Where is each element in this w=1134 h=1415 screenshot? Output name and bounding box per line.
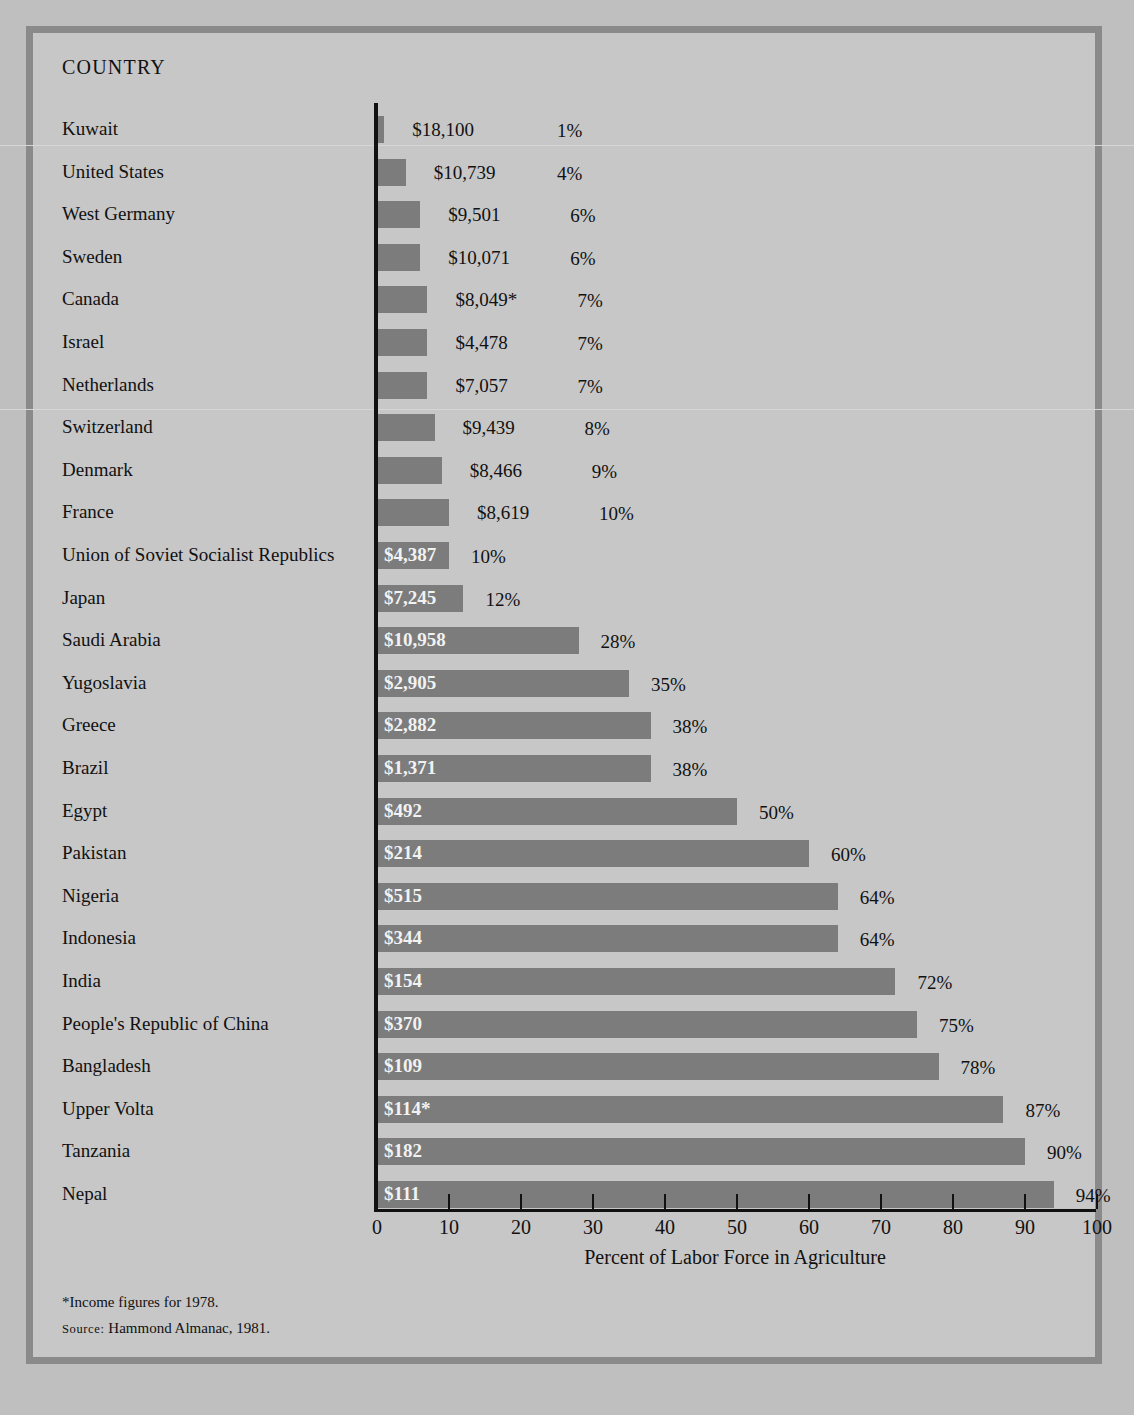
percent-label: 90% (1047, 1142, 1082, 1164)
income-label: $7,057 (455, 375, 507, 397)
country-label: France (62, 501, 114, 523)
x-axis-tick (448, 1194, 450, 1209)
chart-row: Kuwait$18,1001% (0, 110, 1134, 153)
x-axis-tick (664, 1194, 666, 1209)
x-axis-tick (736, 1194, 738, 1209)
income-label: $515 (384, 885, 422, 907)
x-axis-tick (952, 1194, 954, 1209)
bar (377, 414, 435, 441)
percent-label: 78% (961, 1057, 996, 1079)
income-label: $214 (384, 842, 422, 864)
x-axis-tick-label: 70 (871, 1216, 891, 1239)
x-axis-title: Percent of Labor Force in Agriculture (374, 1246, 1096, 1269)
chart-row: Denmark$8,4669% (0, 451, 1134, 494)
percent-label: 64% (860, 929, 895, 951)
bar (377, 499, 449, 526)
chart-row: Pakistan$21460% (0, 834, 1134, 877)
x-axis-tick-label: 10 (439, 1216, 459, 1239)
bar (377, 372, 427, 399)
chart-row: Yugoslavia$2,90535% (0, 664, 1134, 707)
income-label: $344 (384, 927, 422, 949)
income-label: $9,501 (448, 204, 500, 226)
chart-row: Bangladesh$10978% (0, 1047, 1134, 1090)
x-axis-tick (808, 1194, 810, 1209)
chart-row: France$8,61910% (0, 493, 1134, 536)
bar (377, 457, 442, 484)
percent-label: 8% (585, 418, 610, 440)
income-label: $1,371 (384, 757, 436, 779)
chart-row: India$15472% (0, 962, 1134, 1005)
country-label: Bangladesh (62, 1055, 151, 1077)
percent-label: 38% (673, 716, 708, 738)
source-value: Hammond Almanac, 1981. (108, 1320, 270, 1336)
country-label: Brazil (62, 757, 108, 779)
country-label: Upper Volta (62, 1098, 154, 1120)
country-label: India (62, 970, 101, 992)
percent-label: 7% (577, 290, 602, 312)
country-label: Egypt (62, 800, 107, 822)
x-axis-tick-label: 40 (655, 1216, 675, 1239)
percent-label: 7% (577, 333, 602, 355)
income-label: $8,466 (470, 460, 522, 482)
percent-label: 9% (592, 461, 617, 483)
bar (377, 1138, 1025, 1165)
income-label: $9,439 (463, 417, 515, 439)
percent-label: 12% (485, 589, 520, 611)
country-label: Denmark (62, 459, 133, 481)
chart-row: Netherlands$7,0577% (0, 366, 1134, 409)
source-label: Source: (62, 1322, 105, 1336)
bar (377, 1011, 917, 1038)
country-label: Israel (62, 331, 104, 353)
percent-label: 7% (577, 376, 602, 398)
chart-row: Nigeria$51564% (0, 877, 1134, 920)
country-label: Union of Soviet Socialist Republics (62, 544, 334, 566)
country-label: West Germany (62, 203, 175, 225)
x-axis-tick (592, 1194, 594, 1209)
income-label: $111 (384, 1183, 420, 1205)
x-axis-tick (880, 1194, 882, 1209)
percent-label: 10% (471, 546, 506, 568)
chart-row: Switzerland$9,4398% (0, 408, 1134, 451)
footnote-source: Source: Hammond Almanac, 1981. (62, 1315, 270, 1341)
chart-row: Canada$8,049*7% (0, 280, 1134, 323)
income-label: $182 (384, 1140, 422, 1162)
x-axis-tick-label: 90 (1015, 1216, 1035, 1239)
income-label: $8,619 (477, 502, 529, 524)
bar (377, 1053, 939, 1080)
country-label: Nepal (62, 1183, 107, 1205)
percent-label: 60% (831, 844, 866, 866)
bar (377, 244, 420, 271)
income-label: $4,478 (455, 332, 507, 354)
x-axis-tick (1096, 1194, 1098, 1209)
x-axis-tick-label: 50 (727, 1216, 747, 1239)
country-label: Netherlands (62, 374, 154, 396)
income-label: $4,387 (384, 544, 436, 566)
country-label: Nigeria (62, 885, 119, 907)
income-label: $2,905 (384, 672, 436, 694)
country-label: Switzerland (62, 416, 153, 438)
chart-row: Union of Soviet Socialist Republics$4,38… (0, 536, 1134, 579)
footnote-asterisk: *Income figures for 1978. (62, 1289, 270, 1315)
chart-row: Indonesia$34464% (0, 919, 1134, 962)
country-label: Greece (62, 714, 116, 736)
x-axis-tick-label: 80 (943, 1216, 963, 1239)
percent-label: 6% (570, 248, 595, 270)
percent-label: 75% (939, 1015, 974, 1037)
footnotes: *Income figures for 1978. Source: Hammon… (62, 1289, 270, 1342)
chart-row: Brazil$1,37138% (0, 749, 1134, 792)
chart-row: Greece$2,88238% (0, 706, 1134, 749)
income-label: $114* (384, 1098, 430, 1120)
x-axis-line (374, 1209, 1096, 1212)
country-label: Saudi Arabia (62, 629, 161, 651)
bar (377, 798, 737, 825)
income-label: $492 (384, 800, 422, 822)
country-label: Tanzania (62, 1140, 130, 1162)
country-label: Canada (62, 288, 119, 310)
x-axis-tick (520, 1194, 522, 1209)
percent-label: 50% (759, 802, 794, 824)
chart-row: Egypt$49250% (0, 792, 1134, 835)
bar (377, 1096, 1003, 1123)
chart-row: United States$10,7394% (0, 153, 1134, 196)
x-axis-tick (1024, 1194, 1026, 1209)
bar (377, 883, 838, 910)
